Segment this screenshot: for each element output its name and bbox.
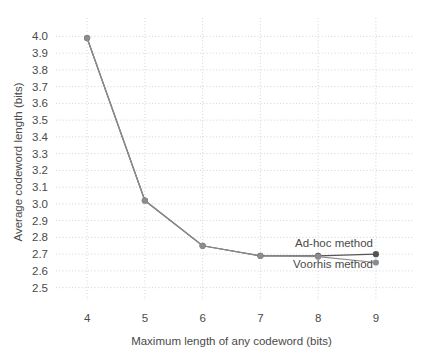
y-tick-label: 3.7 [32, 81, 48, 93]
x-tick-label: 5 [142, 312, 148, 324]
data-point-marker [200, 243, 206, 249]
y-tick-label: 3.3 [32, 148, 48, 160]
y-tick-label: 3.6 [32, 97, 48, 109]
y-tick-label: 3.8 [32, 64, 48, 76]
y-tick-label: 2.7 [32, 248, 48, 260]
y-tick-label: 2.9 [32, 215, 48, 227]
y-tick-label: 3.0 [32, 198, 48, 210]
x-tick-label: 4 [84, 312, 91, 324]
x-tick-label: 6 [199, 312, 205, 324]
y-tick-label: 4.0 [32, 30, 48, 42]
x-tick-label: 7 [257, 312, 263, 324]
data-point-marker [84, 35, 90, 41]
x-tick-label: 8 [315, 312, 321, 324]
data-point-marker [142, 197, 148, 203]
y-tick-label: 3.5 [32, 114, 48, 126]
x-tick-label: 9 [373, 312, 379, 324]
y-tick-label: 2.6 [32, 265, 48, 277]
y-tick-label: 3.2 [32, 164, 48, 176]
y-tick-label: 3.4 [32, 131, 49, 143]
series-label: Voorhis method [293, 258, 373, 270]
y-tick-label: 3.1 [32, 181, 48, 193]
x-axis-title: Maximum length of any codeword (bits) [131, 335, 332, 347]
line-chart: 456789 2.52.62.72.82.93.03.13.23.33.43.5… [0, 0, 421, 359]
chart-background [0, 0, 421, 359]
data-point-marker [373, 251, 379, 257]
chart-container: 456789 2.52.62.72.82.93.03.13.23.33.43.5… [0, 0, 421, 359]
y-tick-label: 2.5 [32, 282, 48, 294]
y-tick-label: 2.8 [32, 231, 48, 243]
y-tick-label: 3.9 [32, 47, 48, 59]
y-axis-title: Average codeword length (bits) [12, 82, 24, 241]
data-point-marker [257, 253, 263, 259]
data-point-marker [373, 259, 379, 265]
series-label: Ad-hoc method [295, 237, 373, 249]
